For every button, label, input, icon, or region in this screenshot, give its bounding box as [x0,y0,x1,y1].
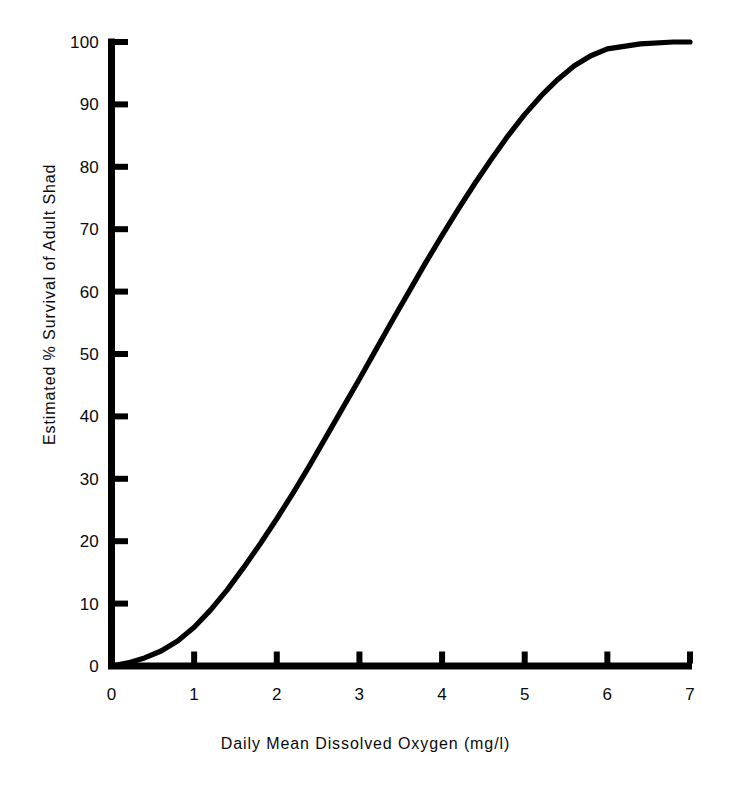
y-axis-tick-label: 90 [0,96,99,113]
x-axis-tick-label: 1 [189,686,199,703]
x-axis-tick-label: 7 [685,686,695,703]
x-axis-tick-label: 2 [272,686,282,703]
x-axis-title: Daily Mean Dissolved Oxygen (mg/l) [221,736,510,752]
x-axis-tick-label: 3 [355,686,365,703]
x-axis-tick-label: 0 [107,686,117,703]
y-axis-tick-label: 20 [0,533,99,550]
y-axis-title: Estimated % Survival of Adult Shad [42,345,58,445]
y-axis-title-text: Estimated % Survival of Adult Shad [42,164,58,445]
x-axis-tick-label: 4 [437,686,447,703]
y-axis-tick-label: 0 [0,658,99,675]
x-axis-tick-label: 5 [520,686,530,703]
y-axis-tick-label: 10 [0,595,99,612]
data-series-line-0 [112,42,691,666]
chart-plot-area [0,0,731,790]
y-axis-tick-label: 30 [0,470,99,487]
chart-figure: 010203040506070809010001234567 Daily Mea… [0,0,731,790]
y-axis-tick-label: 100 [0,34,99,51]
x-axis-tick-label: 6 [603,686,613,703]
